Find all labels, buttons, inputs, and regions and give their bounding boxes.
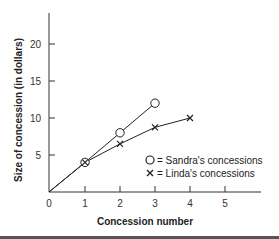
y-tick-label: 20 bbox=[30, 39, 42, 50]
x-marker-icon bbox=[147, 170, 153, 176]
legend-linda: = Linda's concessions bbox=[157, 168, 255, 179]
x-tick-label: 1 bbox=[82, 198, 88, 209]
y-axis-title: Size of concession (in dollars) bbox=[13, 38, 24, 182]
x-tick-label: 4 bbox=[187, 198, 193, 209]
concession-chart: 5 10 15 20 0 1 2 3 4 5 Concession number… bbox=[0, 0, 279, 239]
x-tick-label: 0 bbox=[46, 198, 52, 209]
legend-sandra: = Sandra's concessions bbox=[157, 155, 263, 166]
x-ticks bbox=[85, 186, 225, 192]
y-tick-label: 10 bbox=[30, 113, 42, 124]
bottom-border bbox=[0, 236, 279, 239]
x-tick-label: 2 bbox=[117, 198, 123, 209]
x-tick-label: 5 bbox=[222, 198, 228, 209]
y-tick-label: 15 bbox=[30, 76, 42, 87]
y-tick-label: 5 bbox=[35, 150, 41, 161]
x-tick-label: 3 bbox=[152, 198, 158, 209]
y-ticks bbox=[49, 44, 55, 155]
x-axis-title: Concession number bbox=[97, 216, 193, 227]
circle-marker-icon bbox=[146, 156, 154, 164]
legend: = Sandra's concessions = Linda's concess… bbox=[146, 155, 263, 179]
